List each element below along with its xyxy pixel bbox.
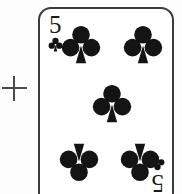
- club-pip-icon: [61, 24, 101, 64]
- plus-marker-vertical-bar: [13, 76, 15, 101]
- playing-card[interactable]: 5 5: [38, 7, 174, 194]
- club-pip-icon: [123, 24, 163, 64]
- club-pip-icon: [92, 83, 132, 123]
- plus-marker-icon: [2, 76, 27, 101]
- club-pip-icon: [120, 143, 160, 183]
- club-pip-icon: [59, 143, 99, 183]
- card-scene: 5 5: [0, 0, 182, 194]
